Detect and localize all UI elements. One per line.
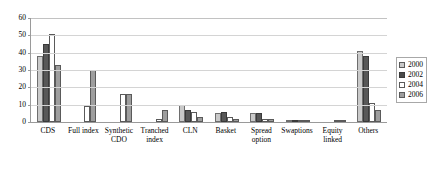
legend-label: 2004: [408, 81, 423, 89]
bar: [268, 119, 274, 122]
x-tick-label-line: Others: [344, 126, 392, 135]
y-tickmark: [28, 53, 31, 54]
y-tick-label: 0: [22, 118, 26, 126]
legend-label: 2000: [408, 61, 423, 69]
y-tick-label: 30: [19, 66, 27, 74]
x-tick-label-line: linked: [309, 135, 357, 144]
gridline: [31, 53, 387, 54]
y-tickmark: [28, 70, 31, 71]
x-axis: CDSFull indexSyntheticCDOTranchedindexCL…: [30, 126, 386, 166]
y-tickmark: [28, 105, 31, 106]
y-tickmark: [28, 35, 31, 36]
gridline: [31, 70, 387, 71]
bar: [90, 70, 96, 122]
bar-chart: 0102030405060 CDSFull indexSyntheticCDOT…: [0, 0, 446, 186]
legend-item-2002[interactable]: 2002: [399, 70, 423, 80]
bar: [126, 94, 132, 122]
x-tick-label-line: index: [131, 135, 179, 144]
legend-item-2004[interactable]: 2004: [399, 80, 423, 90]
y-tickmark: [28, 18, 31, 19]
y-tickmark: [28, 87, 31, 88]
legend-swatch-icon: [399, 62, 405, 68]
y-tick-label: 60: [19, 14, 27, 22]
gridline: [31, 105, 387, 106]
y-tick-label: 20: [19, 84, 27, 92]
legend-swatch-icon: [399, 72, 405, 78]
plot-area: [30, 18, 387, 123]
gridline: [31, 18, 387, 19]
bar: [55, 65, 61, 122]
bar: [304, 120, 310, 122]
legend-item-2006[interactable]: 2006: [399, 90, 423, 100]
y-tick-label: 50: [19, 32, 27, 40]
legend-label: 2006: [408, 91, 423, 99]
bar: [233, 119, 239, 122]
bar: [162, 110, 168, 122]
y-tickmark: [28, 122, 31, 123]
y-tick-label: 40: [19, 49, 27, 57]
chart-plot-wrapper: 0102030405060 CDSFull indexSyntheticCDOT…: [0, 0, 446, 186]
y-tick-label: 10: [19, 101, 27, 109]
bar: [375, 110, 381, 122]
legend-swatch-icon: [399, 82, 405, 88]
y-axis: 0102030405060: [0, 18, 28, 122]
bar: [197, 117, 203, 122]
legend-item-2000[interactable]: 2000: [399, 60, 423, 70]
gridline: [31, 87, 387, 88]
x-tick-label: Others: [344, 126, 392, 135]
legend-label: 2002: [408, 71, 423, 79]
x-tick-label-line: option: [238, 135, 286, 144]
gridline: [31, 35, 387, 36]
bar: [340, 120, 346, 122]
chart-legend: 2000200220042006: [396, 57, 427, 103]
legend-swatch-icon: [399, 92, 405, 98]
